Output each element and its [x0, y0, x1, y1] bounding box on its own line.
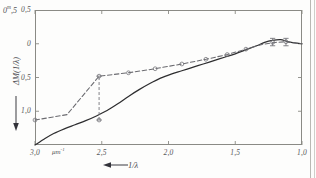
x-axis-tick-label: 2,0 — [155, 148, 183, 157]
y-axis-tick-label: 1,0 — [3, 106, 31, 115]
series-solid-curve — [35, 40, 302, 145]
figure-container: 0m,5 ΔM(1/λ) 1/λ μm-1 3,02,52,01,51,00,5… — [0, 0, 316, 178]
x-axis-title: 1/λ — [128, 160, 138, 170]
y-axis-tick-label: 0,5 — [3, 73, 31, 82]
x-axis-tick-label: 3,0 — [21, 148, 49, 157]
y-axis-tick-label: 0 — [3, 39, 31, 48]
x-axis-tick-label: 1,0 — [288, 148, 316, 157]
y-axis-title: ΔM(1/λ) — [11, 41, 21, 101]
x-axis-tick-label: 2,5 — [88, 148, 116, 157]
x-axis-unit-label: μm-1 — [52, 147, 65, 156]
x-unit-exponent: -1 — [61, 147, 65, 152]
x-axis-tick-label: 1,5 — [221, 148, 249, 157]
data-series-group — [35, 40, 302, 145]
series-dashed-curve — [35, 42, 302, 120]
x-axis-arrow-icon — [103, 162, 128, 168]
x-unit-base: μm — [52, 148, 61, 156]
error-bars-group — [96, 38, 288, 120]
y-axis-tick-label: 0,5 — [3, 5, 31, 14]
